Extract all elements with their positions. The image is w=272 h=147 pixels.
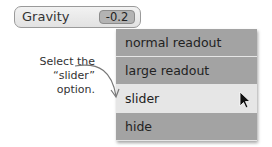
callout-arrow-icon: [0, 0, 272, 147]
mouse-pointer-icon: [239, 91, 253, 111]
